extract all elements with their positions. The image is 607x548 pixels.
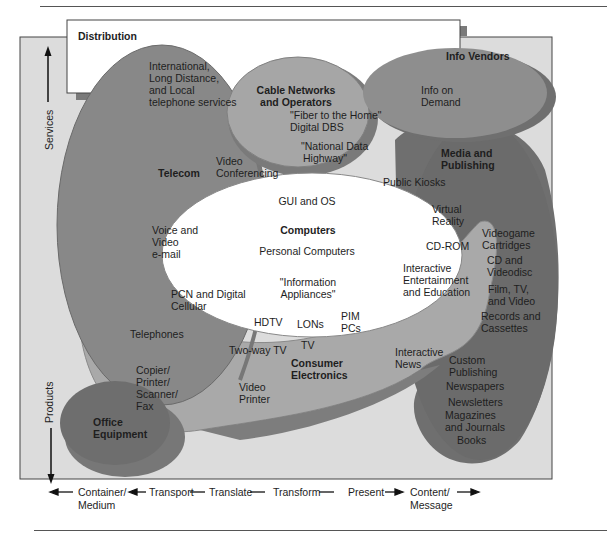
media-item: Magazines — [445, 409, 496, 421]
info-vendors-item: Demand — [421, 96, 461, 108]
telecom-item: PCN and Digital — [171, 288, 246, 300]
cable-item: Highway" — [303, 152, 347, 164]
axis-translate: Translate — [209, 486, 253, 498]
computers-item: "Information — [280, 276, 336, 288]
services-label: Services — [43, 110, 55, 150]
media-item: Interactive — [395, 346, 444, 358]
media-item: Entertainment — [403, 274, 468, 286]
media-item: Newsletters — [448, 396, 503, 408]
media-title: Media and — [441, 147, 492, 159]
consumer-item: PCs — [341, 322, 361, 334]
media-item: Books — [457, 434, 486, 446]
consumer-item: HDTV — [254, 316, 283, 328]
computers-title: Computers — [280, 224, 336, 236]
media-item: Publishing — [449, 366, 498, 378]
media-item: Cassettes — [481, 322, 528, 334]
telecom-item: Voice and — [152, 224, 198, 236]
consumer-item: Two-way TV — [229, 344, 287, 356]
info-vendors-item: Info on — [421, 84, 453, 96]
telecom-item: Video — [216, 155, 243, 167]
industry-convergence-diagram: Services Products Container/ Medium Tran… — [0, 0, 607, 548]
cable-item: "Fiber to the Home" — [290, 109, 382, 121]
telecom-item: Telephones — [130, 328, 184, 340]
telecom-title: Telecom — [158, 167, 200, 179]
media-item: and Education — [403, 286, 470, 298]
media-item: Virtual — [432, 203, 462, 215]
telecom-item: telephone services — [149, 96, 237, 108]
media-item: Reality — [432, 215, 465, 227]
media-item: Custom — [449, 354, 485, 366]
media-item: Videodisc — [487, 266, 532, 278]
cable-title: Cable Networks — [257, 84, 336, 96]
consumer-item: LONs — [297, 318, 324, 330]
telecom-item: and Local — [149, 84, 195, 96]
media-item: News — [395, 358, 421, 370]
telecom-item: Video — [152, 236, 179, 248]
media-title: Publishing — [441, 159, 495, 171]
axis-content: Content/ — [410, 486, 450, 498]
office-title: Office — [93, 416, 123, 428]
consumer-item: Video — [239, 381, 266, 393]
media-item: and Journals — [445, 421, 505, 433]
telecom-item: Fax — [136, 400, 154, 412]
consumer-item: PIM — [341, 310, 360, 322]
media-item: Cartridges — [482, 239, 530, 251]
media-item: Newspapers — [446, 380, 504, 392]
axis-transform: Transform — [273, 486, 321, 498]
cable-title: and Operators — [260, 96, 332, 108]
axis-present: Present — [348, 486, 384, 498]
distribution-title: Distribution — [78, 30, 137, 42]
telecom-item: Scanner/ — [136, 388, 178, 400]
telecom-item: e-mail — [152, 248, 181, 260]
telecom-item: Long Distance, — [149, 72, 219, 84]
computers-item: Appliances" — [280, 288, 335, 300]
consumer-item: TV — [301, 339, 314, 351]
media-item: Public Kiosks — [383, 176, 445, 188]
media-item: and Video — [488, 295, 535, 307]
media-item: Videogame — [482, 227, 535, 239]
media-item: Film, TV, — [488, 283, 529, 295]
telecom-item: Printer/ — [136, 376, 170, 388]
computers-item: GUI and OS — [278, 195, 335, 207]
axis-container: Container/ — [78, 486, 127, 498]
telecom-item: Conferencing — [216, 167, 279, 179]
cable-item: Digital DBS — [290, 121, 344, 133]
media-item: CD and — [487, 254, 523, 266]
telecom-item: Copier/ — [136, 364, 170, 376]
consumer-item: Printer — [239, 393, 270, 405]
computers-item: Personal Computers — [259, 245, 355, 257]
consumer-title: Electronics — [291, 369, 348, 381]
telecom-item: International, — [149, 60, 210, 72]
axis-transport: Transport — [149, 486, 194, 498]
products-label: Products — [43, 382, 55, 423]
cable-item: "National Data — [301, 140, 369, 152]
office-title: Equipment — [93, 428, 148, 440]
media-item: CD-ROM — [426, 240, 469, 252]
media-item: Interactive — [403, 262, 452, 274]
axis-message: Message — [410, 499, 453, 511]
info-vendors-title: Info Vendors — [446, 50, 510, 62]
telecom-item: Cellular — [171, 300, 207, 312]
media-item: Records and — [481, 310, 541, 322]
consumer-title: Consumer — [291, 357, 343, 369]
axis-medium: Medium — [78, 499, 116, 511]
